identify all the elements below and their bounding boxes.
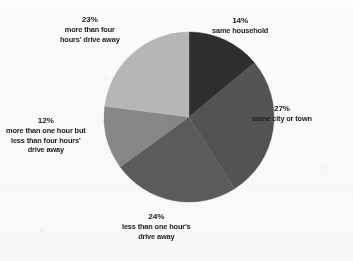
pie-label-more-than-four-hours: 23% more than four hours' drive away: [60, 15, 120, 44]
pie-label-description-line-1: more than four: [60, 25, 120, 34]
pie-slice-more-than-four-hours[interactable]: [105, 32, 189, 117]
pie-label-description: same city or town: [252, 114, 312, 123]
pie-label-one-to-four-hours: 12% more than one hour but less than fou…: [6, 116, 86, 154]
pie-label-description-line-2: hours' drive away: [60, 35, 120, 44]
pie-label-description-line-1: less than one hour's: [122, 222, 191, 231]
pie-label-same-household: 14% same household: [212, 16, 268, 36]
pie-label-percent: 23%: [60, 15, 120, 25]
pie-label-description-line-2: less than four hours': [6, 136, 86, 145]
pie-label-percent: 24%: [122, 212, 191, 222]
pie-label-percent: 14%: [212, 16, 268, 26]
pie-label-percent: 12%: [6, 116, 86, 126]
pie-label-description: same household: [212, 26, 268, 35]
pie-label-description-line-3: drive away: [6, 145, 86, 154]
pie-chart-figure: 14% same household 27% same city or town…: [0, 0, 353, 261]
pie-label-same-city-or-town: 27% same city or town: [252, 104, 312, 124]
pie-label-percent: 27%: [252, 104, 312, 114]
pie-label-less-than-one-hour: 24% less than one hour's drive away: [122, 212, 191, 241]
pie-slice-group: [104, 32, 274, 202]
pie-label-description-line-1: more than one hour but: [6, 126, 86, 135]
pie-label-description-line-2: drive away: [122, 232, 191, 241]
